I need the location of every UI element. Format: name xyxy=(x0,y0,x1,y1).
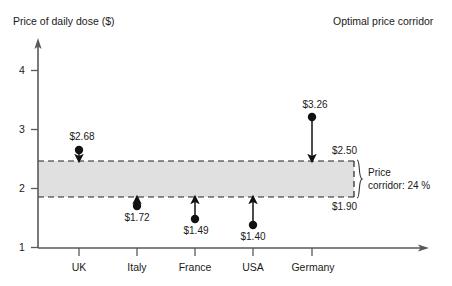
y-tick-label-3: 3 xyxy=(19,124,25,135)
value-label-france: $1.49 xyxy=(183,225,208,236)
x-category-label-france: France xyxy=(179,262,212,273)
data-point-germany xyxy=(308,113,316,121)
value-label-italy: $1.72 xyxy=(124,212,149,223)
corridor-brace-label-line1: Price xyxy=(368,167,391,179)
data-point-usa xyxy=(249,221,257,229)
x-category-label-uk: UK xyxy=(72,262,87,273)
corridor-band xyxy=(38,161,354,197)
y-tick-label-1: 1 xyxy=(19,242,25,253)
x-category-label-usa: USA xyxy=(242,262,264,273)
value-label-usa: $1.40 xyxy=(240,231,265,242)
corridor-brace xyxy=(357,160,362,198)
y-tick-label-2: 2 xyxy=(19,183,25,194)
data-point-italy xyxy=(133,202,141,210)
corridor-brace-label-line2: corridor: 24 % xyxy=(368,180,430,192)
y-tick-label-4: 4 xyxy=(19,65,25,76)
price-corridor-chart: Price of daily dose ($) Optimal price co… xyxy=(0,0,452,286)
corridor-upper-label: $2.50 xyxy=(332,145,357,156)
data-point-uk xyxy=(75,146,83,154)
corridor-lower-label: $1.90 xyxy=(332,201,357,212)
y-axis-title: Price of daily dose ($) xyxy=(13,16,115,27)
optimal-price-corridor-label: Optimal price corridor xyxy=(333,16,433,27)
data-point-france xyxy=(191,215,199,223)
x-category-label-germany: Germany xyxy=(291,262,334,273)
chart-canvas xyxy=(0,0,452,286)
value-label-uk: $2.68 xyxy=(69,131,94,142)
value-label-germany: $3.26 xyxy=(302,99,327,110)
x-category-label-italy: Italy xyxy=(127,262,146,273)
